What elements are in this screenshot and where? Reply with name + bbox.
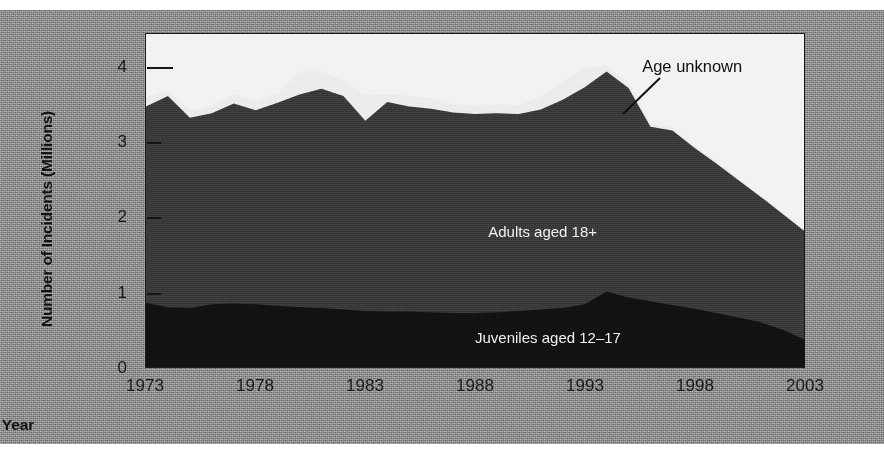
x-tick-label-2003: 2003 xyxy=(765,377,845,394)
figure-inner: Number of Incidents (Millions) Year 0123… xyxy=(0,10,884,444)
y-tick-label-3: 3 xyxy=(93,133,127,150)
x-tick-label-1998: 1998 xyxy=(655,377,735,394)
plot-area xyxy=(145,33,805,368)
series-label-juveniles: Juveniles aged 12–17 xyxy=(475,329,621,346)
stacked-area-chart xyxy=(146,34,804,367)
y-tick-label-4: 4 xyxy=(93,58,127,75)
x-tick-label-1983: 1983 xyxy=(325,377,405,394)
y-tick-label-1: 1 xyxy=(93,284,127,301)
x-tick-label-1973: 1973 xyxy=(105,377,185,394)
x-axis-title-text: Year xyxy=(2,416,34,433)
y-axis-title: Number of Incidents (Millions) xyxy=(38,54,56,384)
callout-label-age-unknown: Age unknown xyxy=(642,57,742,76)
y-tick-mark-4 xyxy=(147,67,173,69)
y-tick-label-0: 0 xyxy=(93,359,127,376)
x-axis-title: Year xyxy=(0,416,884,434)
y-tick-mark-3 xyxy=(147,142,161,144)
x-tick-label-1978: 1978 xyxy=(215,377,295,394)
series-label-adults: Adults aged 18+ xyxy=(488,223,597,240)
y-tick-mark-1 xyxy=(147,293,161,295)
y-tick-mark-2 xyxy=(147,217,161,219)
x-tick-label-1993: 1993 xyxy=(545,377,625,394)
figure-frame: Number of Incidents (Millions) Year 0123… xyxy=(0,10,884,444)
y-tick-label-2: 2 xyxy=(93,208,127,225)
x-tick-label-1988: 1988 xyxy=(435,377,515,394)
